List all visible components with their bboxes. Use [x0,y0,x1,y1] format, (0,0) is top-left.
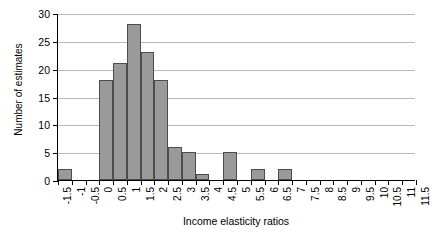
y-axis-tick [53,153,58,154]
x-axis-tick-label: 1.5 [145,187,156,201]
x-axis-tick [196,180,197,185]
x-axis-tick [278,180,279,185]
x-axis-tick-label: 5.5 [255,187,266,201]
x-axis-tick [113,180,114,185]
y-axis-tick [53,14,58,15]
plot-area: 051015202530 -1.5-1-0.500.511.522.533.54… [57,14,415,181]
histogram-bar [127,24,141,180]
x-axis-tick [182,180,183,185]
x-axis-tick-label: 9.5 [365,187,376,201]
y-axis-tick-label: 25 [38,36,50,48]
x-axis-tick-label: -0.5 [90,187,101,204]
x-axis-tick-label: 8 [324,187,335,193]
x-axis-tick [223,180,224,185]
x-axis-tick-label: 7.5 [310,187,321,201]
y-axis-tick-label: 30 [38,8,50,20]
x-axis-tick [58,180,59,185]
y-axis-tick-label: 0 [44,175,50,187]
y-axis-tick-label: 15 [38,92,50,104]
x-axis-tick [99,180,100,185]
x-axis-tick-label: 8.5 [337,187,348,201]
histogram-bar [113,63,127,180]
x-axis-tick-label: 10 [379,187,390,198]
x-axis-tick-label: 6 [269,187,280,193]
x-axis-tick [168,180,169,185]
gridline [58,14,415,15]
x-axis-tick [388,180,389,185]
x-axis-tick-label: -1 [76,187,87,196]
x-axis-tick-label: 4.5 [227,187,238,201]
x-axis-tick-label: 11 [406,187,417,197]
y-axis-tick [53,125,58,126]
x-axis-tick [251,180,252,185]
histogram-bar [58,169,72,180]
x-axis-tick [209,180,210,185]
y-axis-tick [53,42,58,43]
x-axis-tick [402,180,403,185]
gridline [58,70,415,71]
x-axis-tick [333,180,334,185]
x-axis-tick-label: 9 [351,187,362,193]
x-axis-tick [72,180,73,185]
x-axis-tick [127,180,128,185]
x-axis-tick-label: 10.5 [392,187,403,206]
y-axis-tick [53,70,58,71]
y-axis-tick [53,98,58,99]
x-axis-tick-label: 2.5 [172,187,183,201]
x-axis-tick [320,180,321,185]
x-axis-tick-label: 6.5 [282,187,293,201]
x-axis-tick-label: 0.5 [117,187,128,201]
x-axis-tick-label: 11.5 [420,187,431,206]
x-axis-tick [292,180,293,185]
x-axis-tick-label: 7 [296,187,307,193]
histogram-bar [141,52,155,180]
histogram-bar [154,80,168,180]
x-axis-tick-label: 2 [158,187,169,193]
x-axis-tick-label: 3 [186,187,197,193]
histogram-bar [196,174,210,180]
x-axis-tick-label: 5 [241,187,252,193]
y-axis-tick-label: 10 [38,119,50,131]
histogram-bar [99,80,113,180]
x-axis-tick [86,180,87,185]
histogram-bar [251,169,265,180]
x-axis-tick-label: -1.5 [62,187,73,204]
x-axis-tick-label: 1 [131,187,142,193]
x-axis-tick [237,180,238,185]
y-axis-tick-label: 5 [44,147,50,159]
x-axis-tick-label: 0 [103,187,114,193]
histogram-bar [168,147,182,180]
histogram-chart: Number of estimates 051015202530 -1.5-1-… [0,0,435,238]
x-axis-tick [265,180,266,185]
histogram-bar [278,169,292,180]
histogram-bar [182,152,196,180]
x-axis-title: Income elasticity ratios [57,215,415,227]
x-axis-tick [375,180,376,185]
x-axis-tick [141,180,142,185]
x-axis-tick-label: 3.5 [200,187,211,201]
x-axis-tick [154,180,155,185]
y-axis-tick-label: 20 [38,64,50,76]
x-axis-tick [416,180,417,185]
x-axis-tick-label: 4 [213,187,224,193]
histogram-bar [223,152,237,180]
x-axis-tick [306,180,307,185]
x-axis-tick [347,180,348,185]
x-axis-tick [361,180,362,185]
gridline [58,42,415,43]
y-axis-title: Number of estimates [13,20,24,160]
